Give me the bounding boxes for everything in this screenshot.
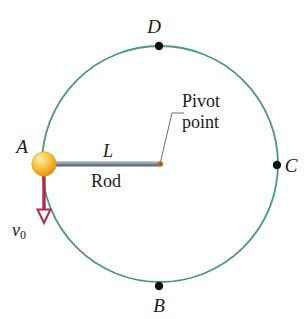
label-point-a: A [16,137,28,156]
diagram-canvas [0,0,307,319]
label-rod-length: L [103,142,113,160]
marker-dot-d [155,42,163,50]
rod-shape [46,162,161,167]
label-velocity: v0 [12,221,26,239]
label-point-b: B [153,296,165,315]
marker-dot-b [155,282,163,290]
label-point-c: C [285,156,298,175]
pivot-leader-line [160,113,184,164]
label-velocity-symbol: v [12,220,20,240]
physics-diagram-figure: A B C D L Rod Pivot point v0 [0,0,307,319]
label-rod-name: Rod [91,172,121,190]
label-pivot-line-2: point [182,112,220,133]
label-point-d: D [147,17,161,36]
label-pivot-point: Pivot point [182,91,220,133]
marker-dot-c [273,161,281,169]
pivot-dot-center [159,163,161,165]
label-velocity-subscript: 0 [20,228,26,242]
velocity-arrow-head [38,210,51,224]
label-pivot-line-1: Pivot [182,91,220,112]
